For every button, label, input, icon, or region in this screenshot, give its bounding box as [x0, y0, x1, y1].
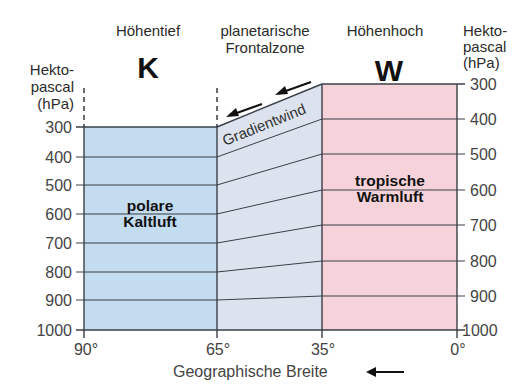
left-axis-title-line2: pascal	[31, 78, 74, 95]
right-axis-title-line3: (hPa)	[463, 54, 500, 71]
svg-text:700: 700	[45, 235, 72, 252]
svg-text:600: 600	[45, 206, 72, 223]
header-hoehenhoch: Höhenhoch	[347, 22, 424, 39]
right-axis-title-line1: Hekto-	[463, 22, 507, 39]
svg-text:400: 400	[45, 149, 72, 166]
svg-text:800: 800	[45, 264, 72, 281]
svg-text:400: 400	[470, 111, 497, 128]
cold-air-label-line2: Kaltluft	[123, 213, 176, 230]
header-frontalzone-line2: Frontalzone	[225, 39, 304, 56]
svg-text:300: 300	[470, 76, 497, 93]
svg-text:500: 500	[45, 177, 72, 194]
svg-text:1000: 1000	[462, 322, 498, 339]
svg-text:600: 600	[470, 182, 497, 199]
x-axis-label: Geographische Breite	[173, 363, 328, 380]
svg-text:700: 700	[470, 217, 497, 234]
svg-text:500: 500	[470, 146, 497, 163]
right-axis-ticks: 300 400 500 600 700 800 900 1000	[462, 76, 498, 339]
left-arrow-icon	[366, 367, 404, 377]
warm-air-region	[322, 84, 457, 330]
header-frontalzone-line1: planetarische	[220, 22, 309, 39]
svg-text:35°: 35°	[311, 341, 335, 358]
header-hoehentief: Höhentief	[116, 22, 181, 39]
pressure-front-diagram: Höhentief planetarische Frontalzone Höhe…	[0, 0, 526, 392]
svg-text:0°: 0°	[450, 341, 465, 358]
svg-text:800: 800	[470, 253, 497, 270]
svg-text:1000: 1000	[36, 322, 72, 339]
x-axis-ticks: 90° 65° 35° 0°	[74, 341, 466, 358]
left-axis-title-line3: (hPa)	[37, 95, 74, 112]
right-axis-title-line2: pascal	[463, 38, 506, 55]
svg-text:900: 900	[470, 288, 497, 305]
left-axis-ticks: 300 400 500 600 700 800 900 1000	[36, 119, 72, 339]
svg-text:65°: 65°	[206, 341, 230, 358]
symbol-warm-w: W	[375, 54, 404, 87]
symbol-cold-k: K	[137, 51, 159, 84]
left-axis-title-line1: Hekto-	[30, 61, 74, 78]
svg-text:300: 300	[45, 119, 72, 136]
warm-air-label-line1: tropische	[355, 172, 425, 189]
cold-air-label-line1: polare	[127, 197, 174, 214]
svg-text:90°: 90°	[74, 341, 98, 358]
svg-text:900: 900	[45, 292, 72, 309]
warm-air-label-line2: Warmluft	[357, 188, 424, 205]
